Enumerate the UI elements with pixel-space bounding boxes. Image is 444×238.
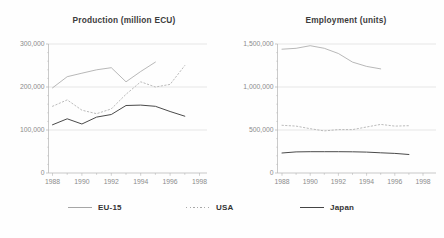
svg-text:1988: 1988 bbox=[45, 178, 60, 185]
svg-text:1,000,000: 1,000,000 bbox=[243, 83, 273, 90]
legend-item-usa: USA bbox=[186, 201, 234, 214]
svg-text:1998: 1998 bbox=[415, 178, 430, 185]
svg-text:1994: 1994 bbox=[359, 178, 374, 185]
legend-label-eu15: EU-15 bbox=[98, 203, 122, 212]
svg-text:1990: 1990 bbox=[303, 178, 318, 185]
svg-text:0: 0 bbox=[270, 169, 274, 176]
series-japan bbox=[282, 152, 409, 155]
employment-chart-title: Employment (units) bbox=[222, 15, 444, 25]
svg-text:1998: 1998 bbox=[192, 178, 207, 185]
japan-line-sample bbox=[300, 207, 324, 208]
usa-line-sample bbox=[186, 207, 210, 208]
svg-text:1988: 1988 bbox=[274, 178, 289, 185]
svg-text:1992: 1992 bbox=[104, 178, 119, 185]
eu15-line-sample bbox=[68, 207, 92, 208]
series-eu-15 bbox=[282, 46, 381, 69]
employment-chart-panel: 0500,0001,000,0001,500,00019881990199219… bbox=[222, 0, 444, 196]
employment-chart: 0500,0001,000,0001,500,00019881990199219… bbox=[222, 0, 444, 196]
production-chart: 0100,000200,000300,000198819901992199419… bbox=[0, 0, 222, 196]
svg-text:0: 0 bbox=[41, 169, 45, 176]
svg-text:500,000: 500,000 bbox=[249, 126, 274, 133]
svg-text:1992: 1992 bbox=[331, 178, 346, 185]
svg-text:1,500,000: 1,500,000 bbox=[243, 40, 273, 47]
series-eu-15 bbox=[53, 62, 156, 88]
svg-text:300,000: 300,000 bbox=[20, 40, 45, 47]
legend-label-japan: Japan bbox=[330, 203, 354, 212]
svg-text:100,000: 100,000 bbox=[20, 126, 45, 133]
series-japan bbox=[53, 105, 185, 125]
svg-text:1990: 1990 bbox=[74, 178, 89, 185]
series-usa bbox=[53, 66, 185, 114]
legend-item-japan: Japan bbox=[300, 201, 354, 214]
production-chart-panel: 0100,000200,000300,000198819901992199419… bbox=[0, 0, 222, 196]
svg-text:1996: 1996 bbox=[163, 178, 178, 185]
svg-text:200,000: 200,000 bbox=[20, 83, 45, 90]
legend-item-eu15: EU-15 bbox=[68, 201, 122, 214]
legend: EU-15 USA Japan bbox=[0, 201, 444, 217]
svg-text:1996: 1996 bbox=[387, 178, 402, 185]
dual-line-chart-figure: 0100,000200,000300,000198819901992199419… bbox=[0, 0, 444, 238]
svg-text:1994: 1994 bbox=[133, 178, 148, 185]
production-chart-title: Production (million ECU) bbox=[0, 15, 222, 25]
legend-label-usa: USA bbox=[216, 203, 234, 212]
